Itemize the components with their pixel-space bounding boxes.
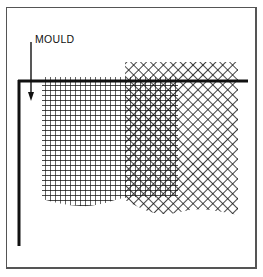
arrow-down-icon xyxy=(28,42,34,101)
mould-label: MOULD xyxy=(35,33,74,45)
